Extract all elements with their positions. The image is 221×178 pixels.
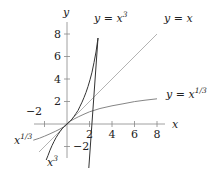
- tick-x-4: 4: [109, 128, 116, 141]
- tick-x-6: 6: [131, 128, 138, 141]
- tick-x-8: 8: [154, 128, 161, 141]
- label-identity: y = x: [163, 12, 193, 25]
- tick-y-neg2: −2: [73, 140, 89, 153]
- label-cuberoot: y = x1/3: [165, 86, 207, 101]
- curve-cuberoot: [33, 99, 157, 140]
- tick-y-6: 6: [54, 50, 61, 63]
- label-cuberoot-short: x1/3: [14, 132, 33, 147]
- tick-y-2: 2: [54, 95, 61, 108]
- function-plot: −2 2 4 6 8 −2 2 4 6 8 x y y = x3 y = x y…: [0, 0, 221, 178]
- label-cube: y = x3: [93, 10, 128, 25]
- tick-y-4: 4: [54, 73, 61, 86]
- tick-x-neg2: −2: [26, 105, 42, 118]
- y-axis-label: y: [62, 6, 70, 19]
- x-axis-label: x: [172, 118, 179, 131]
- label-cube-short: x3: [47, 154, 58, 169]
- tick-y-8: 8: [54, 28, 61, 41]
